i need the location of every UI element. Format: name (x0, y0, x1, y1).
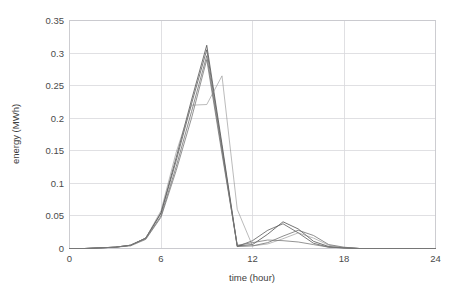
y-tick-label: 0.1 (51, 178, 64, 189)
y-tick-label: 0.2 (51, 113, 64, 124)
y-tick-label: 0 (59, 243, 64, 254)
x-tick-label: 24 (430, 253, 441, 264)
x-tick-label: 18 (339, 253, 350, 264)
x-tick-label: 6 (158, 253, 163, 264)
y-tick-label: 0.25 (46, 80, 65, 91)
x-tick-label: 12 (247, 253, 258, 264)
y-tick-label: 0.05 (46, 210, 65, 221)
y-tick-label: 0.3 (51, 48, 64, 59)
energy-profile-chart: 00.050.10.150.20.250.30.35 06121824 time… (0, 0, 461, 297)
y-tick-label: 0.15 (46, 145, 65, 156)
x-tick-label: 0 (67, 253, 72, 264)
y-tick-label: 0.35 (46, 15, 65, 26)
y-axis-label: energy (MWh) (10, 104, 21, 164)
x-axis-label: time (hour) (229, 272, 275, 283)
